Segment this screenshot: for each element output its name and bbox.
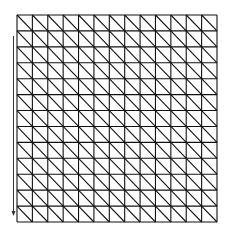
cell-diagonal <box>17 111 32 127</box>
cell-diagonal <box>109 15 124 31</box>
cell-diagonal <box>63 126 78 142</box>
cell-diagonal <box>109 111 124 127</box>
cell-diagonal <box>17 63 32 79</box>
cell-diagonal <box>94 158 109 174</box>
cell-diagonal <box>79 111 94 127</box>
cell-diagonal <box>63 111 78 127</box>
cell-diagonal <box>171 15 186 31</box>
cell-diagonal <box>171 206 186 222</box>
cell-diagonal <box>202 142 217 158</box>
cell-diagonal <box>94 111 109 127</box>
cell-diagonal <box>171 142 186 158</box>
cell-diagonal <box>171 79 186 95</box>
cell-diagonal <box>202 47 217 63</box>
cell-diagonal <box>79 206 94 222</box>
cell-diagonal <box>17 174 32 190</box>
cell-diagonal <box>125 126 140 142</box>
cell-diagonal <box>63 95 78 111</box>
cell-diagonal <box>140 126 155 142</box>
cell-diagonal <box>48 126 63 142</box>
cell-diagonal <box>155 190 170 206</box>
cell-diagonal <box>32 126 47 142</box>
cell-diagonal <box>94 142 109 158</box>
cell-diagonal <box>109 142 124 158</box>
cell-diagonal <box>186 190 201 206</box>
cell-diagonal <box>48 95 63 111</box>
arrow-head <box>12 211 16 216</box>
cell-diagonal <box>155 174 170 190</box>
cell-diagonal <box>63 15 78 31</box>
cell-diagonal <box>48 142 63 158</box>
cell-diagonal <box>186 142 201 158</box>
cell-diagonal <box>48 174 63 190</box>
cell-diagonal <box>140 158 155 174</box>
cell-diagonal <box>79 126 94 142</box>
cell-diagonal <box>32 206 47 222</box>
cell-diagonal <box>125 142 140 158</box>
cell-diagonal <box>48 47 63 63</box>
cell-diagonal <box>171 126 186 142</box>
cell-diagonal <box>63 31 78 47</box>
cell-diagonal <box>79 190 94 206</box>
cell-diagonal <box>32 142 47 158</box>
cell-diagonal <box>125 206 140 222</box>
cell-diagonal <box>17 95 32 111</box>
cell-diagonal <box>79 95 94 111</box>
cell-diagonal <box>140 95 155 111</box>
cell-diagonal <box>171 31 186 47</box>
cell-diagonal <box>109 190 124 206</box>
cell-diagonal <box>140 47 155 63</box>
cell-diagonal <box>63 174 78 190</box>
cell-diagonal <box>186 31 201 47</box>
cell-diagonal <box>17 15 32 31</box>
cell-diagonal <box>202 95 217 111</box>
cell-diagonal <box>155 126 170 142</box>
cell-diagonal <box>17 206 32 222</box>
cell-diagonal <box>32 79 47 95</box>
cell-diagonal <box>48 206 63 222</box>
cell-diagonal <box>171 111 186 127</box>
triangulated-grid-diagram <box>0 0 229 233</box>
cell-diagonal <box>17 158 32 174</box>
cell-diagonal <box>125 158 140 174</box>
cell-diagonal <box>63 79 78 95</box>
cell-diagonal <box>32 174 47 190</box>
cell-diagonal <box>48 31 63 47</box>
cell-diagonal <box>171 158 186 174</box>
cell-diagonal <box>109 174 124 190</box>
cell-diagonal <box>79 158 94 174</box>
cell-diagonal <box>140 190 155 206</box>
cell-diagonal <box>94 63 109 79</box>
cell-diagonal <box>186 15 201 31</box>
cell-diagonal <box>79 174 94 190</box>
cell-diagonal <box>48 111 63 127</box>
cell-diagonal <box>94 95 109 111</box>
cell-diagonal <box>125 15 140 31</box>
diagonal-lines <box>17 15 217 222</box>
cell-diagonal <box>186 126 201 142</box>
cell-diagonal <box>63 142 78 158</box>
cell-diagonal <box>32 111 47 127</box>
cell-diagonal <box>48 15 63 31</box>
cell-diagonal <box>17 31 32 47</box>
cell-diagonal <box>48 190 63 206</box>
cell-diagonal <box>125 190 140 206</box>
cell-diagonal <box>140 63 155 79</box>
cell-diagonal <box>125 47 140 63</box>
cell-diagonal <box>125 79 140 95</box>
cell-diagonal <box>171 174 186 190</box>
cell-diagonal <box>17 47 32 63</box>
cell-diagonal <box>186 158 201 174</box>
cell-diagonal <box>32 63 47 79</box>
cell-diagonal <box>202 111 217 127</box>
cell-diagonal <box>79 63 94 79</box>
cell-diagonal <box>155 31 170 47</box>
cell-diagonal <box>186 95 201 111</box>
cell-diagonal <box>186 47 201 63</box>
cell-diagonal <box>109 47 124 63</box>
cell-diagonal <box>79 142 94 158</box>
cell-diagonal <box>202 190 217 206</box>
cell-diagonal <box>48 158 63 174</box>
cell-diagonal <box>63 47 78 63</box>
cell-diagonal <box>155 63 170 79</box>
